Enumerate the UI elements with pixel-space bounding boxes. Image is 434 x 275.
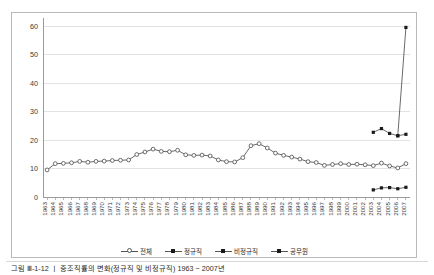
data-point-0: [388, 164, 392, 168]
data-point-2: [404, 186, 407, 189]
x-axis-tick-label: 1971: [106, 201, 113, 215]
x-axis-tick-label: 1994: [294, 201, 301, 215]
x-axis-tick-label: 2006: [392, 201, 399, 215]
y-axis-tick-label: 60: [30, 22, 38, 31]
data-point-0: [282, 153, 286, 157]
legend-marker-filled-square-3: [271, 247, 288, 255]
x-axis-tick-label: 1970: [98, 201, 105, 215]
data-point-0: [102, 159, 106, 163]
data-point-0: [94, 159, 98, 163]
legend-item-2[interactable]: 비정규직: [215, 246, 258, 256]
data-point-0: [53, 162, 57, 166]
data-point-0: [274, 151, 278, 155]
x-axis-tick-label: 2002: [359, 201, 366, 215]
data-point-0: [168, 150, 172, 154]
figure-caption: 그림 Ⅲ-1-12 ㅣ 중조직률의 변화(정규직 및 비정규직) 1963 ~ …: [11, 264, 431, 273]
data-point-0: [233, 160, 237, 164]
x-axis-tick-label: 2007: [400, 201, 407, 215]
x-axis-tick-label: 1992: [278, 201, 285, 215]
data-point-0: [159, 150, 163, 154]
legend-label-1: 정규직: [184, 246, 202, 256]
data-point-0: [331, 163, 335, 167]
x-axis-tick-label: 1983: [204, 201, 211, 215]
data-point-0: [135, 153, 139, 157]
x-axis-tick-label: 1993: [286, 201, 293, 215]
data-point-0: [151, 147, 155, 151]
x-axis-tick-label: 1977: [155, 201, 162, 215]
x-axis-tick-label: 1995: [302, 201, 309, 215]
figure-container: 0102030405060196319641965196619671968196…: [0, 0, 434, 275]
data-point-2: [388, 186, 391, 189]
legend-marker-filled-square-1: [165, 247, 182, 255]
chart-legend: 전체 정규직 비정규직 공무원: [12, 245, 416, 257]
chart-plot: 0102030405060196319641965196619671968196…: [12, 13, 416, 257]
data-point-0: [249, 144, 253, 148]
data-point-0: [404, 162, 408, 166]
data-point-1: [388, 132, 391, 135]
data-point-3: [404, 26, 407, 29]
x-axis-tick-label: 1965: [57, 201, 64, 215]
legend-item-0[interactable]: 전체: [121, 246, 152, 256]
data-point-0: [241, 156, 245, 160]
x-axis-tick-label: 1996: [310, 201, 317, 215]
data-point-2: [372, 188, 375, 191]
x-axis-tick-label: 1998: [327, 201, 334, 215]
x-axis-tick-label: 1968: [82, 201, 89, 215]
y-axis-tick-label: 30: [30, 107, 38, 116]
x-axis-tick-label: 1991: [269, 201, 276, 215]
data-point-0: [200, 153, 204, 157]
x-axis-tick-label: 2004: [375, 201, 382, 215]
data-point-0: [61, 161, 65, 165]
x-axis-tick-label: 1980: [180, 201, 187, 215]
x-axis-tick-label: 1966: [66, 201, 73, 215]
data-point-0: [86, 160, 90, 164]
data-point-0: [339, 162, 343, 166]
x-axis-tick-label: 1984: [212, 201, 219, 215]
x-axis-tick-label: 2003: [367, 201, 374, 215]
data-point-1: [404, 133, 407, 136]
x-axis-tick-label: 2005: [384, 201, 391, 215]
legend-label-3: 공무원: [290, 246, 308, 256]
data-point-3: [396, 134, 399, 137]
x-axis-tick-label: 1969: [90, 201, 97, 215]
data-point-0: [119, 158, 123, 162]
x-axis-tick-label: 1997: [318, 201, 325, 215]
legend-item-3[interactable]: 공무원: [271, 246, 308, 256]
data-point-0: [110, 159, 114, 163]
data-point-0: [265, 146, 269, 150]
x-axis-tick-label: 1972: [114, 201, 121, 215]
y-axis-tick-label: 20: [30, 136, 38, 145]
x-axis-tick-label: 2001: [351, 201, 358, 215]
legend-label-0: 전체: [140, 246, 152, 256]
data-point-0: [127, 158, 131, 162]
x-axis-tick-label: 1987: [237, 201, 244, 215]
data-point-0: [208, 154, 212, 158]
x-axis-tick-label: 1982: [196, 201, 203, 215]
data-point-0: [314, 161, 318, 165]
x-axis-tick-label: 1975: [139, 201, 146, 215]
data-point-0: [355, 162, 359, 166]
x-axis-tick-label: 1974: [131, 201, 138, 215]
series-line-3: [398, 27, 406, 135]
data-point-0: [192, 153, 196, 157]
data-point-0: [322, 163, 326, 167]
data-point-0: [216, 158, 220, 162]
data-point-2: [380, 186, 383, 189]
data-point-0: [45, 168, 49, 172]
x-axis-tick-label: 1986: [229, 201, 236, 215]
data-point-2: [396, 187, 399, 190]
series-line-0: [47, 144, 406, 170]
y-axis-tick-label: 40: [30, 79, 38, 88]
x-axis-tick-label: 1979: [172, 201, 179, 215]
y-axis-tick-label: 50: [30, 50, 38, 59]
data-point-0: [396, 166, 400, 170]
data-point-1: [372, 131, 375, 134]
data-point-0: [184, 153, 188, 157]
legend-marker-filled-square-2: [215, 247, 232, 255]
x-axis-tick-label: 1981: [188, 201, 195, 215]
data-point-1: [380, 127, 383, 130]
legend-item-1[interactable]: 정규직: [165, 246, 202, 256]
data-point-0: [225, 160, 229, 164]
data-point-0: [257, 142, 261, 146]
data-point-0: [290, 155, 294, 159]
